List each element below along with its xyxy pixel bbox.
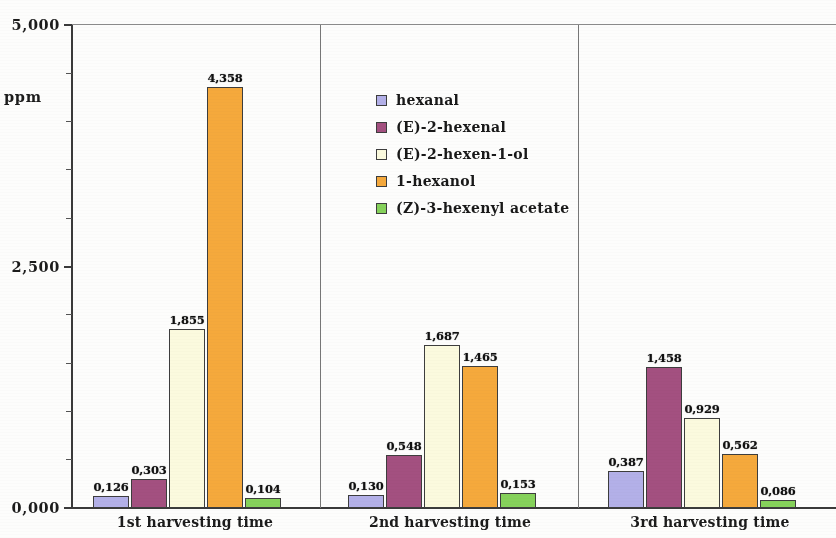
bar-value-label: 0,548 <box>386 439 421 453</box>
bar[interactable]: 0,548 <box>386 455 422 508</box>
bar-slot: 0,562 <box>722 25 758 508</box>
y-tick-major <box>64 24 72 26</box>
bar-value-label: 1,465 <box>462 350 497 364</box>
legend: hexanal(E)-2-hexenal(E)-2-hexen-1-ol1-he… <box>376 92 569 216</box>
y-tick-minor <box>66 73 72 74</box>
bar-value-label: 0,929 <box>684 402 719 416</box>
bar[interactable]: 1,855 <box>169 329 205 508</box>
y-tick-minor <box>66 314 72 315</box>
bar[interactable]: 0,153 <box>500 493 536 508</box>
bar-value-label: 1,687 <box>424 329 459 343</box>
x-axis-category-label: 2nd harvesting time <box>350 514 550 530</box>
legend-item-label: 1-hexanol <box>396 173 476 189</box>
y-tick-minor <box>66 459 72 460</box>
bar[interactable]: 1,687 <box>424 345 460 508</box>
legend-item-label: (E)-2-hexenal <box>396 119 506 135</box>
bar-group-bars: 0,1260,3031,8554,3580,104 <box>93 25 281 508</box>
bar-value-label: 0,086 <box>760 484 795 498</box>
bar-value-label: 0,303 <box>131 463 166 477</box>
bar-value-label: 1,458 <box>646 351 681 365</box>
bar[interactable]: 0,929 <box>684 418 720 508</box>
legend-swatch-icon <box>376 95 387 106</box>
bar-slot: 0,126 <box>93 25 129 508</box>
legend-item[interactable]: 1-hexanol <box>376 173 569 189</box>
x-axis-category-label: 3rd harvesting time <box>610 514 810 530</box>
bar[interactable]: 1,458 <box>646 367 682 508</box>
bar[interactable]: 0,387 <box>608 471 644 508</box>
legend-swatch-icon <box>376 122 387 133</box>
y-tick-minor <box>66 121 72 122</box>
y-tick-label: 2,500 <box>0 258 60 275</box>
y-tick-minor <box>66 169 72 170</box>
legend-swatch-icon <box>376 203 387 214</box>
bar-value-label: 0,387 <box>608 455 643 469</box>
legend-item-label: (Z)-3-hexenyl acetate <box>396 200 569 216</box>
y-tick-minor <box>66 363 72 364</box>
bar-value-label: 0,130 <box>348 479 383 493</box>
bar-value-label: 0,126 <box>93 480 128 494</box>
bar-value-label: 0,104 <box>245 482 280 496</box>
bar[interactable]: 4,358 <box>207 87 243 508</box>
legend-item[interactable]: (Z)-3-hexenyl acetate <box>376 200 569 216</box>
legend-item[interactable]: hexanal <box>376 92 569 108</box>
legend-item[interactable]: (E)-2-hexen-1-ol <box>376 146 569 162</box>
chart-canvas: ppm 0,0002,5005,000 0,1260,3031,8554,358… <box>0 0 836 538</box>
legend-item-label: (E)-2-hexen-1-ol <box>396 146 529 162</box>
x-axis-category-label: 1st harvesting time <box>95 514 295 530</box>
bar-slot: 1,458 <box>646 25 682 508</box>
legend-swatch-icon <box>376 149 387 160</box>
bar-slot: 0,104 <box>245 25 281 508</box>
y-tick-label: 5,000 <box>0 16 60 33</box>
bar-value-label: 0,562 <box>722 438 757 452</box>
bar-slot: 0,387 <box>608 25 644 508</box>
legend-item-label: hexanal <box>396 92 459 108</box>
bar-slot: 1,855 <box>169 25 205 508</box>
y-axis-title: ppm <box>4 88 66 105</box>
bar[interactable]: 0,086 <box>760 500 796 508</box>
bar-value-label: 1,855 <box>169 313 204 327</box>
legend-item[interactable]: (E)-2-hexenal <box>376 119 569 135</box>
bar-value-label: 4,358 <box>207 71 242 85</box>
bar[interactable]: 0,126 <box>93 496 129 508</box>
bar[interactable]: 0,130 <box>348 495 384 508</box>
bar-group-bars: 0,3871,4580,9290,5620,086 <box>608 25 796 508</box>
bar-slot: 0,303 <box>131 25 167 508</box>
y-tick-minor <box>66 411 72 412</box>
bar[interactable]: 0,303 <box>131 479 167 508</box>
bar[interactable]: 0,104 <box>245 498 281 508</box>
bar-slot: 0,086 <box>760 25 796 508</box>
legend-swatch-icon <box>376 176 387 187</box>
bar-slot: 0,929 <box>684 25 720 508</box>
y-tick-minor <box>66 218 72 219</box>
bar-value-label: 0,153 <box>500 477 535 491</box>
y-tick-label: 0,000 <box>0 499 60 516</box>
y-tick-major <box>64 266 72 268</box>
bar-slot: 4,358 <box>207 25 243 508</box>
y-tick-major <box>64 507 72 509</box>
bar[interactable]: 1,465 <box>462 366 498 508</box>
bar[interactable]: 0,562 <box>722 454 758 508</box>
